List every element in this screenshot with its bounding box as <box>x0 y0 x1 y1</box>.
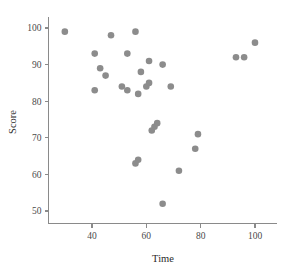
data-point <box>62 28 69 35</box>
data-point <box>135 91 142 98</box>
data-point <box>159 61 166 68</box>
data-point <box>167 83 174 90</box>
x-tick-label: 80 <box>196 231 206 241</box>
data-point <box>132 28 139 35</box>
x-tick-label: 100 <box>248 231 263 241</box>
data-point <box>159 200 166 207</box>
data-point <box>176 167 183 174</box>
y-tick-label: 80 <box>32 97 42 107</box>
x-tick-label: 60 <box>142 231 152 241</box>
data-point <box>252 39 259 46</box>
data-point <box>102 72 109 79</box>
data-point <box>146 58 153 65</box>
data-point <box>135 156 142 163</box>
data-point <box>124 50 131 57</box>
x-axis-ticks: 406080100 <box>87 224 262 241</box>
data-point <box>241 54 248 61</box>
axes-group <box>49 17 277 223</box>
data-point <box>91 87 98 94</box>
data-point <box>138 69 145 76</box>
y-tick-label: 50 <box>32 206 42 216</box>
y-tick-label: 60 <box>32 170 42 180</box>
y-tick-label: 70 <box>32 133 42 143</box>
x-axis-title: Time <box>152 253 174 264</box>
data-point <box>146 80 153 87</box>
data-point <box>108 32 115 39</box>
x-tick-label: 40 <box>87 231 97 241</box>
data-point <box>124 87 131 94</box>
data-point <box>195 131 202 138</box>
scatter-plot-figure: 5060708090100 406080100 Time Score <box>0 0 294 268</box>
data-point <box>119 83 126 90</box>
data-point <box>154 120 161 127</box>
y-tick-label: 100 <box>27 23 42 33</box>
data-point <box>233 54 240 61</box>
data-point <box>192 145 199 152</box>
data-point <box>91 50 98 57</box>
y-axis-title: Score <box>7 110 18 134</box>
data-point-group <box>62 28 259 207</box>
plot-canvas: 5060708090100 406080100 Time Score <box>0 0 294 268</box>
data-point <box>97 65 104 72</box>
y-axis-ticks: 5060708090100 <box>27 23 48 216</box>
y-tick-label: 90 <box>32 60 42 70</box>
